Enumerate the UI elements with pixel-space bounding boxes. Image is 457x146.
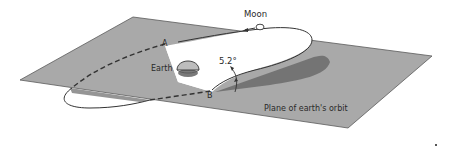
stray-mark xyxy=(435,144,437,146)
earth-label: Earth xyxy=(151,64,172,73)
moon-body xyxy=(256,24,264,30)
moon-orbit-diagram: Moon Earth A B 5.2° Plane of earth's orb… xyxy=(0,0,457,146)
angle-label: 5.2° xyxy=(219,56,237,66)
plane-label: Plane of earth's orbit xyxy=(264,104,348,113)
node-b-label: B xyxy=(207,91,213,100)
moon-label: Moon xyxy=(244,9,267,19)
node-a-label: A xyxy=(162,39,168,48)
